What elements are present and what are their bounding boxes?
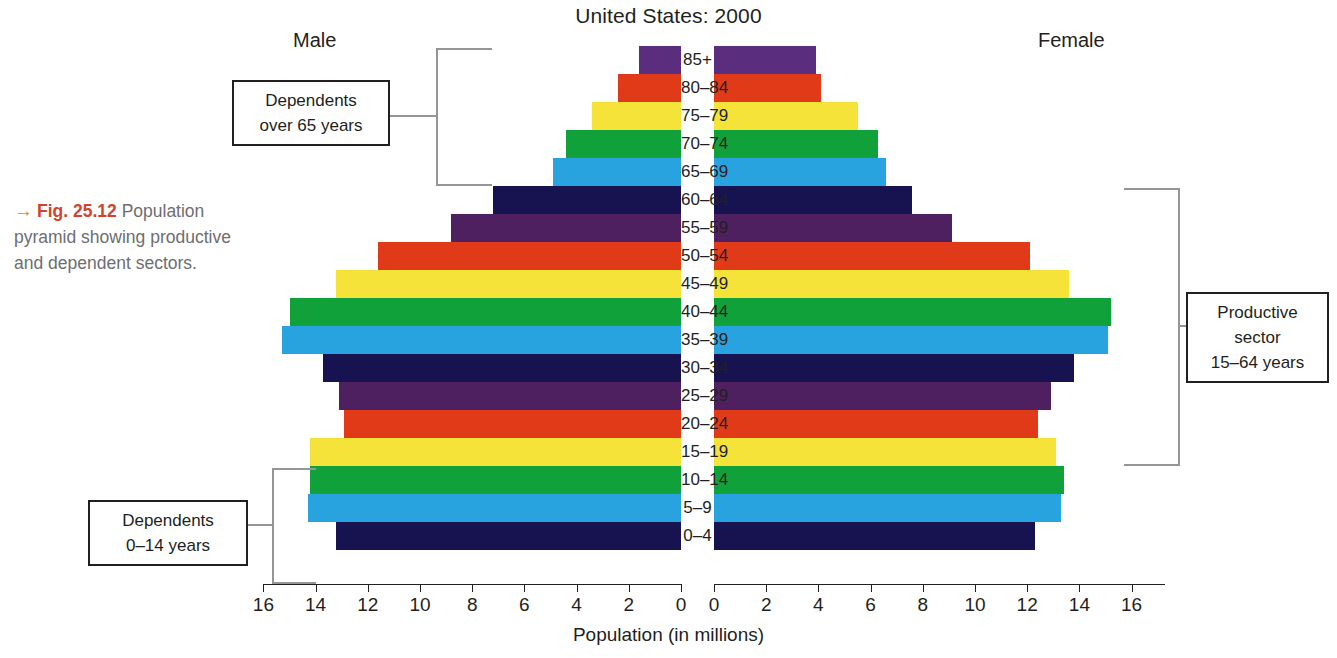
bar-female-35-39: [714, 326, 1108, 354]
bar-male-0-4: [336, 522, 681, 550]
axis-tick-label-right-12: 12: [1010, 594, 1044, 616]
axis-tick: [766, 584, 767, 592]
callout-over65-line1: Dependents: [242, 88, 380, 113]
pyramid-row: 65–69: [0, 158, 1337, 186]
bar-male-20-24: [344, 410, 681, 438]
axis-tick-label-left-0: 0: [664, 594, 698, 616]
age-band-label: 50–54: [681, 242, 714, 270]
age-band-label: 40–44: [681, 298, 714, 326]
bar-female-10-14: [714, 466, 1064, 494]
age-band-label: 5–9: [681, 494, 714, 522]
bar-male-30-34: [323, 354, 681, 382]
pyramid-row: 40–44: [0, 298, 1337, 326]
axis-tick-label-right-16: 16: [1115, 594, 1149, 616]
pyramid-row: 15–19: [0, 438, 1337, 466]
axis-tick-label-right-2: 2: [749, 594, 783, 616]
age-band-label: 65–69: [681, 158, 714, 186]
bracket-under14-bottom-arm: [272, 582, 316, 584]
bar-female-70-74: [714, 130, 878, 158]
chart-title: United States: 2000: [0, 4, 1337, 28]
bracket-under14-top-arm: [272, 468, 316, 470]
age-band-label: 60–64: [681, 186, 714, 214]
pyramid-row: 30–34: [0, 354, 1337, 382]
bar-male-45-49: [336, 270, 681, 298]
axis-tick: [871, 584, 872, 592]
bar-female-60-64: [714, 186, 912, 214]
axis-tick-label-right-10: 10: [958, 594, 992, 616]
axis-tick: [524, 584, 525, 592]
bar-male-65-69: [553, 158, 681, 186]
bar-female-30-34: [714, 354, 1074, 382]
bar-male-25-29: [339, 382, 681, 410]
bracket-over65-stem: [390, 115, 438, 117]
axis-tick-label-left-2: 2: [612, 594, 646, 616]
bar-female-45-49: [714, 270, 1069, 298]
axis-tick-label-right-4: 4: [801, 594, 835, 616]
bar-female-65-69: [714, 158, 886, 186]
callout-under14-line1: Dependents: [98, 508, 238, 533]
age-band-label: 15–19: [681, 438, 714, 466]
bar-female-55-59: [714, 214, 952, 242]
pyramid-row: 80–84: [0, 74, 1337, 102]
axis-tick: [1132, 584, 1133, 592]
bar-male-75-79: [592, 102, 681, 130]
pyramid-row: 60–64: [0, 186, 1337, 214]
age-band-label: 80–84: [681, 74, 714, 102]
bar-male-85+: [639, 46, 681, 74]
bar-female-50-54: [714, 242, 1030, 270]
callout-under14-line2: 0–14 years: [98, 533, 238, 558]
bar-female-25-29: [714, 382, 1051, 410]
age-band-label: 30–34: [681, 354, 714, 382]
pyramid-row: 45–49: [0, 270, 1337, 298]
age-band-label: 35–39: [681, 326, 714, 354]
bracket-over65-bottom-arm: [436, 184, 492, 186]
axis-tick-label-left-14: 14: [299, 594, 333, 616]
age-band-label: 20–24: [681, 410, 714, 438]
bar-female-20-24: [714, 410, 1038, 438]
axis-tick: [263, 584, 264, 592]
axis-tick: [1079, 584, 1080, 592]
bar-female-5-9: [714, 494, 1061, 522]
age-band-label: 10–14: [681, 466, 714, 494]
figure-root: →Fig. 25.12 Population pyramid showing p…: [0, 0, 1337, 658]
x-axis-right: [714, 584, 1165, 585]
axis-tick-label-left-4: 4: [560, 594, 594, 616]
callout-productive-sector: Productive sector 15–64 years: [1186, 292, 1329, 383]
pyramid-row: 20–24: [0, 410, 1337, 438]
pyramid-row: 55–59: [0, 214, 1337, 242]
age-band-label: 25–29: [681, 382, 714, 410]
axis-tick: [629, 584, 630, 592]
age-band-label: 70–74: [681, 130, 714, 158]
pyramid-row: 50–54: [0, 242, 1337, 270]
pyramid-row: 35–39: [0, 326, 1337, 354]
age-band-label: 85+: [681, 46, 714, 74]
axis-tick-label-left-8: 8: [455, 594, 489, 616]
bar-male-10-14: [310, 466, 681, 494]
age-band-label: 0–4: [681, 522, 714, 550]
bar-female-85+: [714, 46, 816, 74]
callout-prod-line1: Productive: [1196, 300, 1319, 325]
bar-female-15-19: [714, 438, 1056, 466]
bracket-productive-top-arm: [1124, 188, 1180, 190]
axis-tick-label-left-12: 12: [351, 594, 385, 616]
bracket-over65-top-arm: [436, 48, 492, 50]
bracket-under14-stem: [248, 524, 274, 526]
callout-prod-line2: sector: [1196, 325, 1319, 350]
bar-female-0-4: [714, 522, 1035, 550]
axis-tick: [975, 584, 976, 592]
pyramid-row: 70–74: [0, 130, 1337, 158]
bracket-productive-bottom-arm: [1124, 464, 1180, 466]
axis-tick-label-right-14: 14: [1062, 594, 1096, 616]
axis-tick: [714, 584, 715, 592]
bar-male-55-59: [451, 214, 681, 242]
pyramid-row: 75–79: [0, 102, 1337, 130]
age-band-label: 45–49: [681, 270, 714, 298]
callout-over65-line2: over 65 years: [242, 113, 380, 138]
pyramid-row: 25–29: [0, 382, 1337, 410]
bar-male-5-9: [308, 494, 681, 522]
axis-tick: [681, 584, 682, 592]
axis-tick: [577, 584, 578, 592]
axis-tick-label-left-10: 10: [403, 594, 437, 616]
x-axis-title: Population (in millions): [0, 624, 1337, 646]
axis-tick-label-right-8: 8: [906, 594, 940, 616]
